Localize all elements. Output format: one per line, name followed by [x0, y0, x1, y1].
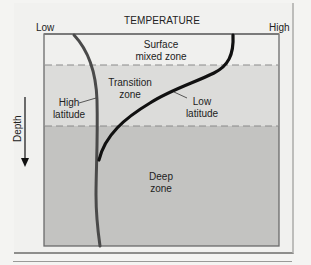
high-latitude-label-line2: latitude: [53, 109, 86, 120]
transition-zone-label-line2: zone: [119, 89, 141, 100]
depth-arrow-head-icon: [21, 158, 29, 167]
depth-label: Depth: [12, 115, 23, 142]
temperature-low-label: Low: [36, 22, 55, 33]
surface-zone-label-line1: Surface: [144, 39, 179, 50]
low-latitude-label-line2: latitude: [186, 108, 219, 119]
surface-zone-label-line2: mixed zone: [135, 51, 187, 62]
temperature-depth-diagram: TEMPERATURE Low High Depth Surface mixed…: [0, 0, 311, 265]
deep-zone-label-line1: Deep: [149, 171, 173, 182]
high-latitude-label-line1: High: [59, 97, 80, 108]
deep-zone-label-line2: zone: [150, 183, 172, 194]
temperature-title: TEMPERATURE: [124, 15, 200, 26]
transition-zone-label-line1: Transition: [108, 77, 152, 88]
low-latitude-label-line1: Low: [193, 96, 212, 107]
temperature-high-label: High: [269, 22, 290, 33]
